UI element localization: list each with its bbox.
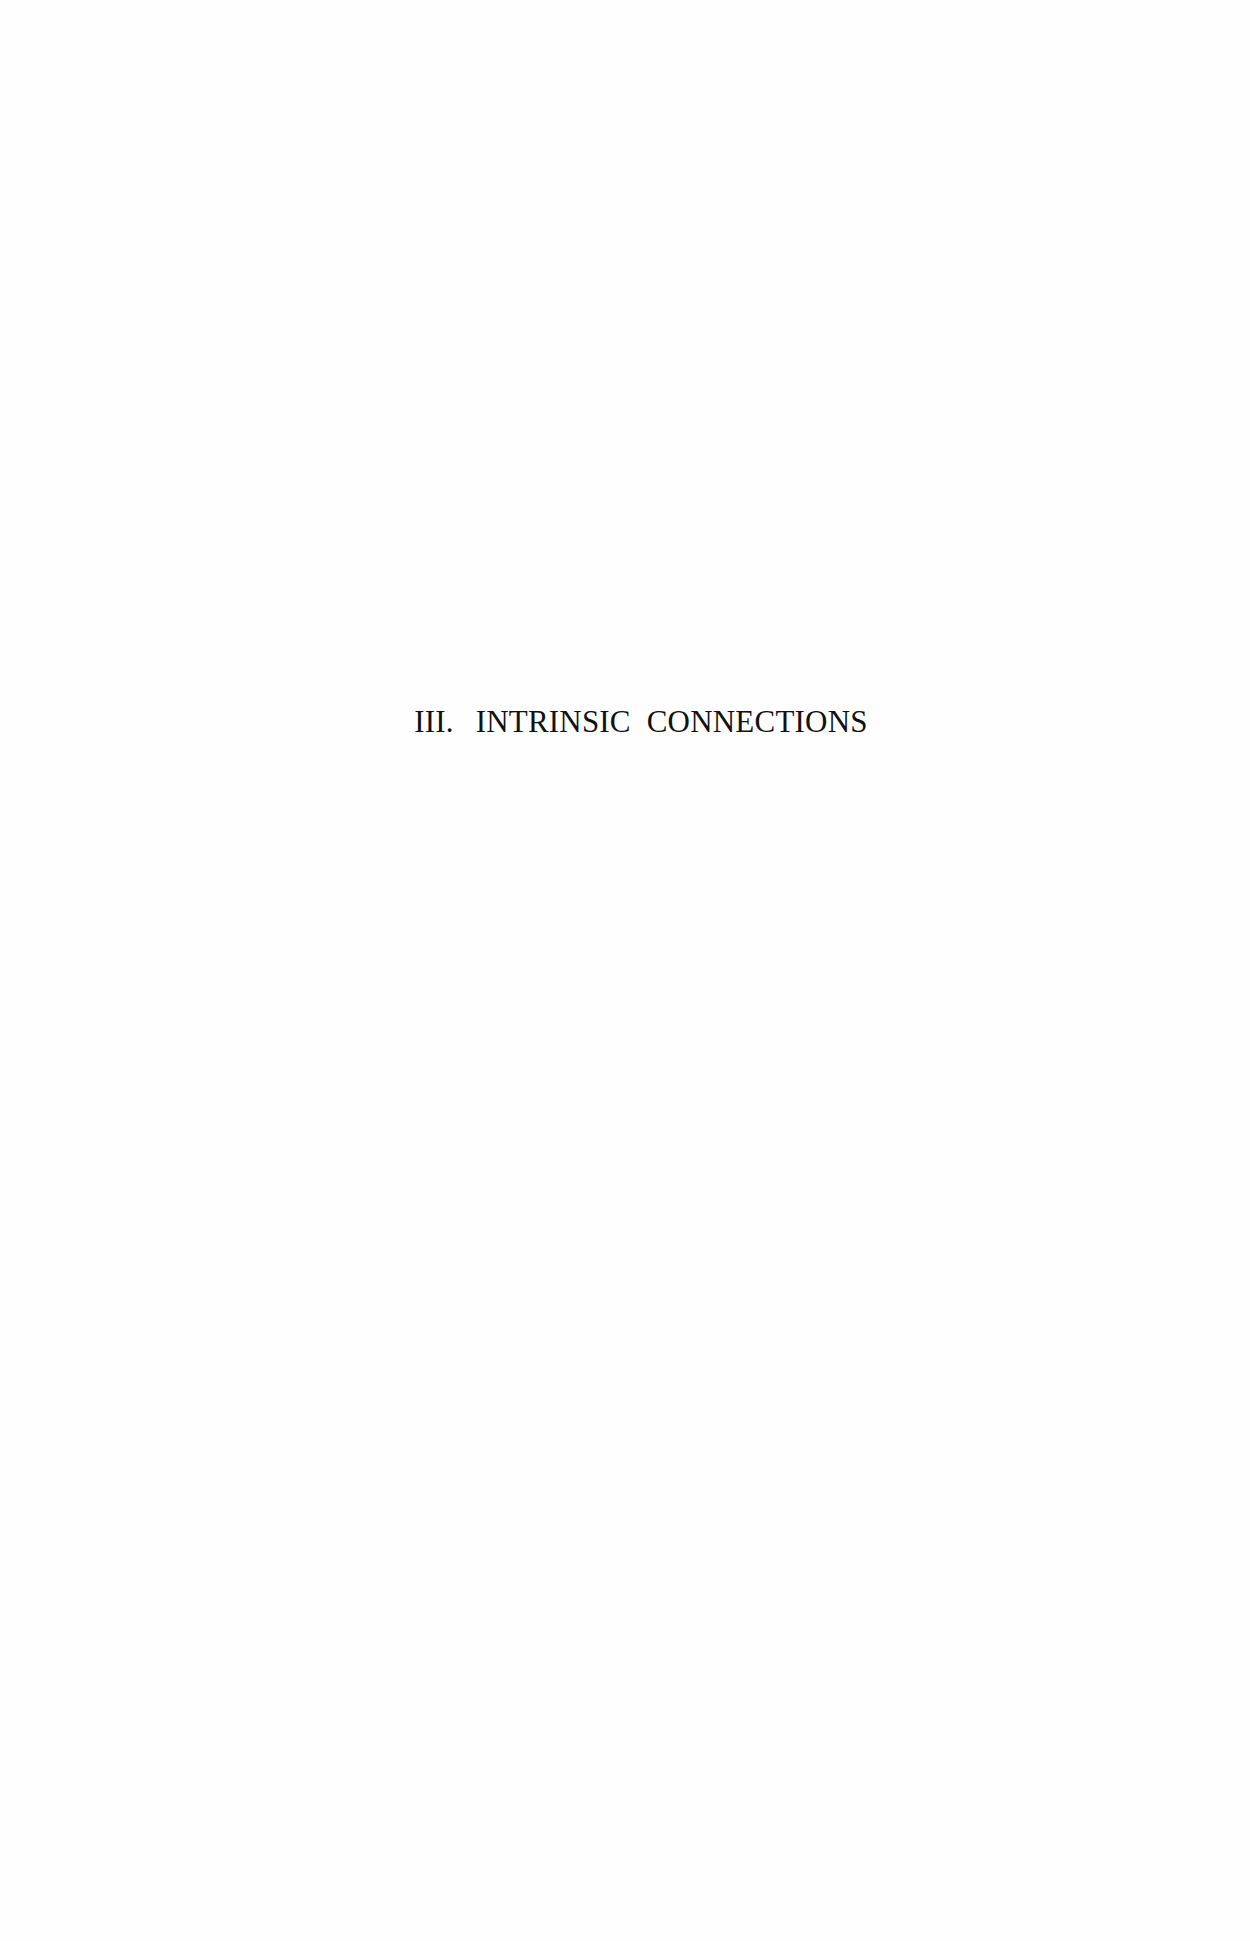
document-page: III.INTRINSICCONNECTIONS — [0, 0, 1250, 1941]
section-title-word-1: INTRINSIC — [476, 704, 631, 739]
section-numeral: III. — [414, 704, 454, 739]
section-heading: III.INTRINSICCONNECTIONS — [0, 668, 1250, 776]
section-title-word-2: CONNECTIONS — [647, 704, 868, 739]
